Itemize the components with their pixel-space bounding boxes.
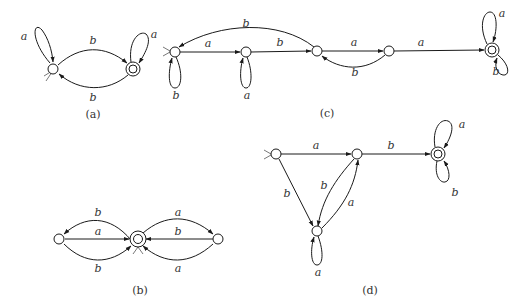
edge-d-loop-r3-b [436,161,449,182]
state-p0 [170,47,180,57]
edge-b-r-c-a [143,244,213,260]
state-p4-final-inner [488,46,496,54]
edge-d-r2-r1 [322,160,358,228]
caption-c: (c) [320,107,335,120]
label-d-loop-r3-b: b [451,186,458,199]
label-c-p2-p3: a [351,36,358,49]
initial-state-marker [264,150,271,159]
panel-d: a b b a a b a b (d) [264,118,465,297]
edge-d-loop-r3-a [434,121,452,148]
state-q1-final-inner [129,65,137,73]
initial-state-marker [133,247,143,254]
edge-c-loop-p0 [169,57,180,88]
state-r1 [352,149,362,159]
label-c-p3-p2: b [351,66,358,79]
label-b-r-c-a: a [175,262,182,275]
label-d-loop-r2: a [315,266,322,279]
caption-a: (a) [85,108,100,121]
edge-c-p1-p2 [251,51,311,52]
label-c-p1-p2: b [276,36,283,49]
state-R [213,234,223,244]
label-b-c-l: b [94,206,101,219]
state-p2 [312,46,322,56]
initial-state-marker [163,47,170,56]
label-a-q1-q0: b [89,91,96,104]
label-c-loop-p1: a [244,89,251,102]
edge-a-loop-q1 [131,33,149,63]
label-b-r-c-b: b [174,225,181,238]
state-q0 [48,64,58,74]
state-r3-final-inner [434,150,442,158]
edge-c-loop-p1 [241,57,251,88]
state-C-final-inner [134,235,143,244]
edge-c-loop-p4-a [482,12,496,44]
edge-b-l-c-b [64,244,131,260]
label-d-r0-r2: b [283,187,290,200]
label-d-r1-r2: b [320,179,327,192]
label-b-l-c-a: a [95,225,102,238]
state-p3 [384,46,394,56]
edge-a-loop-q0 [35,27,53,63]
caption-b: (b) [132,284,148,297]
caption-d: (d) [362,284,378,297]
label-b-c-r: a [175,206,182,219]
label-d-loop-r3-a: a [459,118,466,131]
edge-c-p3-p4 [394,50,484,51]
label-b-l-c-b: b [94,262,101,275]
label-c-loop-p4-a: a [499,7,506,20]
label-c-p2-p0: b [242,17,249,30]
label-d-r0-r1: a [313,139,320,152]
label-c-p3-p4: a [418,36,425,49]
label-a-loop-q0: a [21,30,28,43]
state-p1 [241,47,251,57]
label-d-r2-r1: a [348,196,355,209]
panel-c: b a a b b a b a a b (c) [163,7,508,120]
edge-a-q1-q0 [59,74,128,88]
label-a-q0-q1: b [89,34,96,47]
panel-a: a b b a (a) [21,27,158,121]
state-r2 [312,226,322,236]
label-c-p0-p1: a [205,37,212,50]
panel-b: b a b a b a (b) [54,206,223,297]
automata-figure: a b b a (a) b a a [0,0,516,307]
label-c-loop-p4-b: b [492,65,499,78]
label-a-loop-q1: a [151,28,158,41]
state-L [54,234,64,244]
edge-c-p2-p0 [179,27,314,47]
edge-d-loop-r2 [312,236,322,265]
label-d-r1-r3: b [387,139,394,152]
edge-a-q0-q1 [58,50,127,65]
label-c-loop-p0: b [172,89,179,102]
state-r0 [271,149,281,159]
